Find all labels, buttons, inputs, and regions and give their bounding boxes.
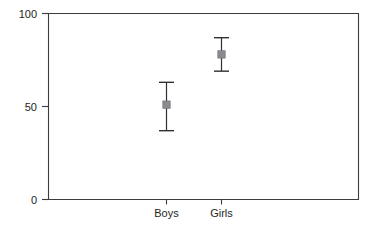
y-axis-label-50: 50 xyxy=(25,101,37,113)
plot-frame xyxy=(49,14,359,200)
mean-marker-boys xyxy=(163,101,170,108)
x-axis-label-boys: Boys xyxy=(154,207,179,219)
x-axis-label-girls: Girls xyxy=(210,207,233,219)
y-axis-ticks xyxy=(42,14,49,200)
x-axis-ticks xyxy=(167,200,222,205)
mean-marker-girls xyxy=(218,51,225,58)
plot-border xyxy=(49,14,359,200)
y-axis-label-0: 0 xyxy=(31,194,37,206)
error-bar-chart: 100 50 0 Boys Girls xyxy=(0,0,377,229)
chart-container: 100 50 0 Boys Girls xyxy=(0,0,377,229)
y-axis-label-100: 100 xyxy=(19,8,37,20)
data-point-girls xyxy=(214,38,229,71)
data-point-boys xyxy=(159,82,174,130)
